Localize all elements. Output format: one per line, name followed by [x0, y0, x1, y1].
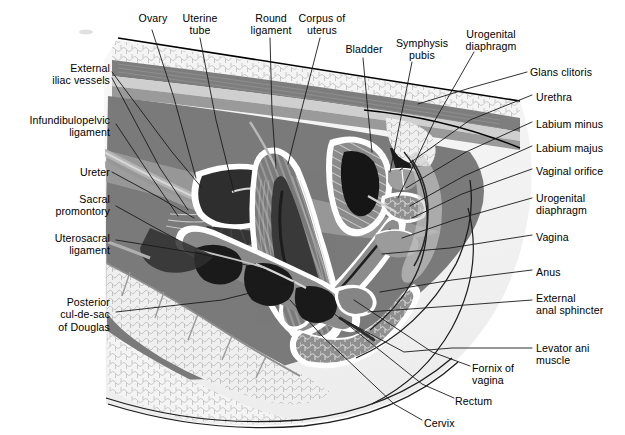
label-sacral-promontory: Sacral promontory — [18, 193, 110, 218]
label-glans-clitoris: Glans clitoris — [530, 66, 616, 78]
label-fornix-of-vagina: Fornix of vagina — [472, 362, 536, 387]
label-bladder: Bladder — [340, 43, 388, 55]
label-ovary: Ovary — [131, 12, 175, 24]
label-labium-majus: Labium majus — [536, 142, 622, 154]
label-ureter: Ureter — [32, 166, 110, 178]
label-round-ligament: Round ligament — [243, 12, 299, 37]
body-section — [104, 38, 532, 435]
label-external-anal-sphincter: External anal sphincter — [536, 292, 624, 317]
label-uterosacral-ligament: Uterosacral ligament — [12, 232, 110, 257]
label-anus: Anus — [536, 266, 622, 278]
label-levator-ani-muscle: Levator ani muscle — [536, 342, 622, 367]
scan-artifact — [79, 29, 93, 34]
label-labium-minus: Labium minus — [536, 118, 622, 130]
label-infundibulopelvic-ligament: Infundibulopelvic ligament — [8, 114, 110, 139]
label-rectum: Rectum — [455, 395, 519, 407]
label-external-iliac-vessels: External iliac vessels — [18, 62, 110, 87]
label-urogenital-diaphragm-right: Urogenital diaphragm — [536, 192, 622, 217]
label-urethra: Urethra — [536, 91, 622, 103]
label-cervix: Cervix — [424, 417, 488, 429]
label-vagina: Vagina — [536, 231, 622, 243]
label-urogenital-diaphragm-top: Urogenital diaphragm — [460, 28, 522, 53]
label-symphysis-pubis: Symphysis pubis — [392, 37, 452, 62]
label-uterine-tube: Uterine tube — [176, 12, 224, 37]
label-vaginal-orifice: Vaginal orifice — [536, 165, 622, 177]
label-corpus-uteri: Corpus of uterus — [294, 12, 350, 37]
anatomy-figure: OvaryUterine tubeRound ligamentCorpus of… — [0, 0, 625, 435]
label-posterior-cul-de-sac: Posterior cul-de-sac of Douglas — [18, 296, 110, 333]
